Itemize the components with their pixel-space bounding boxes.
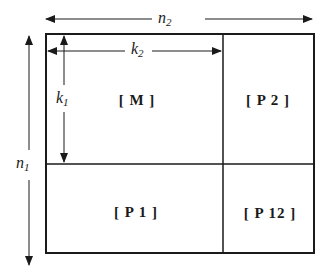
- block-p1-label: [ P 1 ]: [114, 204, 158, 221]
- block-p12-label: [ P 12 ]: [244, 205, 297, 222]
- n2-label-sub: 2: [166, 16, 172, 28]
- k1-label-sub: 1: [63, 96, 69, 108]
- k2-label-sub: 2: [138, 47, 144, 59]
- block-p2-label: [ P 2 ]: [246, 92, 290, 109]
- n1-label-sub: 1: [24, 161, 30, 173]
- block-m-label: [ M ]: [119, 92, 156, 109]
- n2-label: n2: [158, 9, 172, 28]
- n2-label-base: n: [158, 9, 166, 26]
- k1-label: k1: [56, 89, 69, 108]
- k2-label: k2: [131, 40, 144, 59]
- n1-label-base: n: [16, 154, 24, 171]
- partitioned-matrix-diagram: n2 k2 k1 n1 [ M ] [ P 2 ] [ P 1 ] [ P 12…: [0, 0, 332, 270]
- n1-label: n1: [16, 154, 30, 173]
- diagram-lines: [0, 0, 332, 270]
